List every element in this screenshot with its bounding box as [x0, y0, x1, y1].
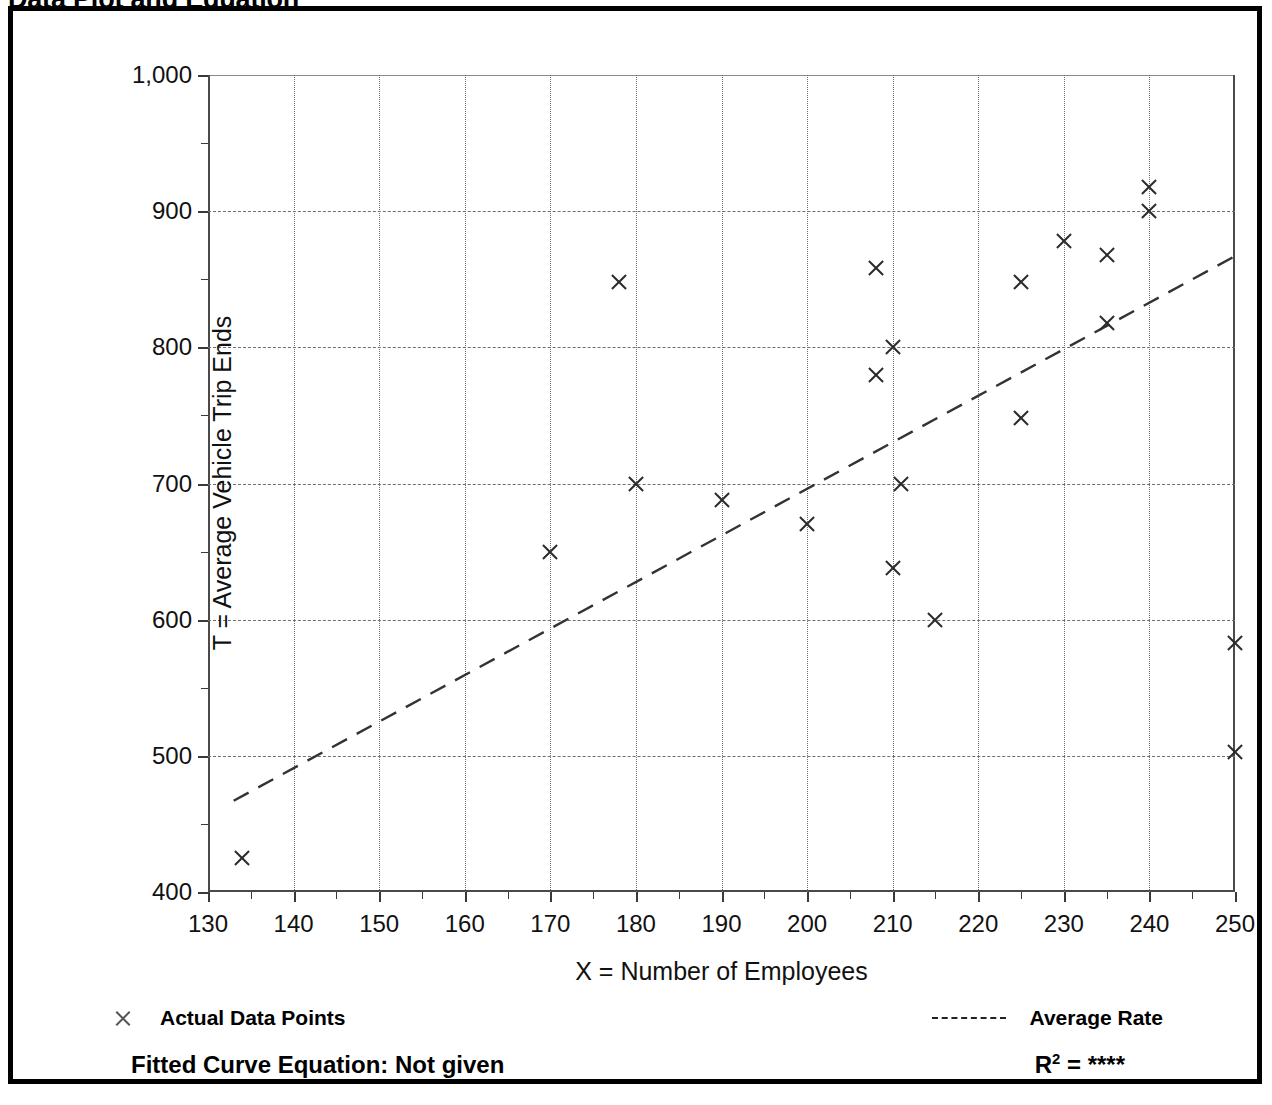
y-axis-tick-label: 1,000	[132, 61, 192, 89]
data-point-marker	[1097, 245, 1117, 265]
x-axis-tick-label: 220	[958, 910, 998, 938]
data-point-marker	[626, 474, 646, 494]
y-axis-tick	[198, 756, 208, 758]
data-point-marker	[232, 848, 252, 868]
x-axis-tick	[208, 892, 210, 902]
x-axis-tick-label: 180	[616, 910, 656, 938]
y-axis-tick	[198, 75, 208, 77]
legend-item-actual-data-points: Actual Data Points	[113, 1006, 346, 1030]
x-axis-tick-label: 210	[873, 910, 913, 938]
legend-label-actual-data-points: Actual Data Points	[160, 1006, 346, 1030]
r-squared-prefix: R	[1035, 1051, 1052, 1078]
data-point-marker	[1225, 742, 1245, 762]
x-axis-minor-tick	[508, 892, 509, 899]
x-axis-minor-tick	[336, 892, 337, 899]
x-axis-minor-tick	[850, 892, 851, 899]
r-squared-equals: =	[1060, 1051, 1087, 1078]
fitted-curve-equation: Fitted Curve Equation: Not given	[131, 1051, 504, 1079]
x-axis-tick	[1149, 892, 1151, 902]
x-axis-tick-label: 250	[1215, 910, 1255, 938]
x-axis-tick-label: 200	[787, 910, 827, 938]
data-point-marker	[1011, 408, 1031, 428]
data-point-marker	[883, 337, 903, 357]
data-point-marker	[866, 258, 886, 278]
data-point-marker	[1011, 272, 1031, 292]
x-axis-tick	[1064, 892, 1066, 902]
y-axis-tick	[198, 347, 208, 349]
x-axis-tick	[893, 892, 895, 902]
data-point-marker	[540, 542, 560, 562]
x-axis-tick	[550, 892, 552, 902]
y-axis-minor-tick	[201, 143, 208, 144]
x-axis-tick-label: 170	[530, 910, 570, 938]
x-axis-minor-tick	[1107, 892, 1108, 899]
y-axis-tick-label: 900	[152, 197, 192, 225]
y-axis-title: T = Average Vehicle Trip Ends	[208, 316, 237, 651]
x-axis-minor-tick	[422, 892, 423, 899]
data-point-marker	[866, 365, 886, 385]
data-point-marker	[1225, 633, 1245, 653]
y-axis-tick	[198, 620, 208, 622]
x-axis-minor-tick	[679, 892, 680, 899]
plot-area: 4005006007008009001,00013014015016017018…	[208, 75, 1235, 892]
y-axis-tick-label: 800	[152, 333, 192, 361]
legend: Actual Data Points Average Rate	[113, 1006, 1173, 1040]
x-axis-minor-tick	[935, 892, 936, 899]
x-axis-tick	[379, 892, 381, 902]
data-point-marker	[1097, 313, 1117, 333]
x-axis-minor-tick	[593, 892, 594, 899]
x-axis-tick-label: 140	[274, 910, 314, 938]
y-axis-tick	[198, 892, 208, 894]
data-point-marker	[925, 610, 945, 630]
data-point-marker	[797, 514, 817, 534]
data-point-marker	[891, 474, 911, 494]
x-axis-tick-label: 160	[445, 910, 485, 938]
y-axis-minor-tick	[201, 824, 208, 825]
figure-frame: 4005006007008009001,00013014015016017018…	[8, 6, 1262, 1084]
x-axis-tick	[722, 892, 724, 902]
r-squared-stars: ****	[1088, 1051, 1125, 1078]
x-axis-tick	[636, 892, 638, 902]
dashed-line-icon	[932, 1017, 1006, 1019]
x-axis-title: X = Number of Employees	[208, 957, 1235, 986]
x-axis-tick-label: 230	[1044, 910, 1084, 938]
y-axis-minor-tick	[201, 279, 208, 280]
data-point-marker	[1139, 177, 1159, 197]
legend-label-average-rate: Average Rate	[1030, 1006, 1163, 1030]
data-point-marker	[712, 490, 732, 510]
x-axis-minor-tick	[1192, 892, 1193, 899]
data-point-marker	[1054, 231, 1074, 251]
x-axis-tick	[1235, 892, 1237, 902]
y-axis-tick-label: 400	[152, 878, 192, 906]
r-squared-value: R2 = ****	[1035, 1051, 1125, 1079]
legend-item-average-rate: Average Rate	[932, 1006, 1163, 1030]
x-axis-tick	[978, 892, 980, 902]
x-axis-minor-tick	[764, 892, 765, 899]
average-rate-trendline	[208, 75, 1235, 892]
y-axis-tick	[198, 484, 208, 486]
y-axis-tick-label: 700	[152, 470, 192, 498]
y-axis-tick-label: 500	[152, 742, 192, 770]
x-axis-tick-label: 130	[188, 910, 228, 938]
equation-row: Fitted Curve Equation: Not given R2 = **…	[113, 1051, 1173, 1091]
x-axis-tick-label: 240	[1129, 910, 1169, 938]
x-axis-minor-tick	[1021, 892, 1022, 899]
y-axis-tick	[198, 211, 208, 213]
y-axis-minor-tick	[201, 688, 208, 689]
x-axis-tick	[807, 892, 809, 902]
x-marker-icon	[113, 1009, 132, 1028]
x-axis-tick-label: 190	[701, 910, 741, 938]
x-axis-tick	[294, 892, 296, 902]
x-axis-tick	[465, 892, 467, 902]
data-point-marker	[609, 272, 629, 292]
data-point-marker	[883, 558, 903, 578]
x-axis-tick-label: 150	[359, 910, 399, 938]
data-point-marker	[1139, 201, 1159, 221]
x-axis-minor-tick	[251, 892, 252, 899]
y-axis-tick-label: 600	[152, 606, 192, 634]
